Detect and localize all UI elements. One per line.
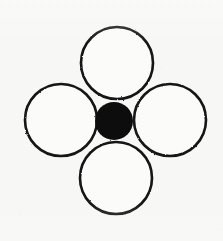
top-circle xyxy=(81,27,153,99)
bottom-circle xyxy=(80,142,152,214)
center-circle-group xyxy=(95,102,133,140)
figure-canvas: Four circles arranged around a filled ce… xyxy=(0,0,223,241)
right-circle xyxy=(134,84,206,156)
circles-diagram: Four circles arranged around a filled ce… xyxy=(0,0,223,241)
center-circle xyxy=(95,102,133,140)
left-circle xyxy=(25,84,97,156)
